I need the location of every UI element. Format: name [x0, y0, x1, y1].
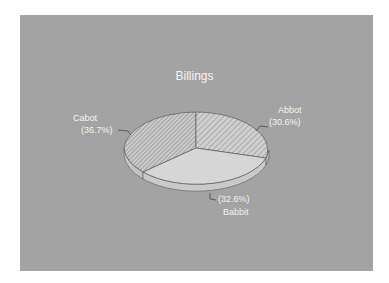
- pie-chart: [0, 0, 389, 283]
- leader-cabot: [118, 130, 131, 135]
- label-cabot-percent: (36.7%): [81, 125, 113, 136]
- leader-babbit: [210, 193, 216, 200]
- label-abbot-name: Abbot: [278, 105, 302, 116]
- label-babbit-name: Babbit: [223, 207, 249, 218]
- label-abbot-percent: (30.6%): [269, 117, 301, 128]
- label-babbit-percent: (32.6%): [218, 194, 250, 205]
- leader-abbot: [256, 126, 268, 131]
- label-cabot-name: Cabot: [73, 113, 97, 124]
